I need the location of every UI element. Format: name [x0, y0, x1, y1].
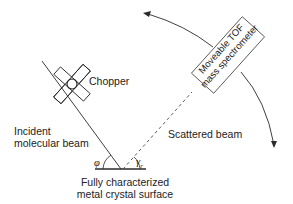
- arrow-head-down-icon: [271, 141, 277, 148]
- gamma-subscript: r: [140, 162, 143, 170]
- surface-label-1: Fully characterized: [70, 176, 180, 188]
- scattered-beam-label: Scattered beam: [168, 128, 242, 140]
- scattered-angle-label: γr: [136, 156, 143, 172]
- rotation-arc-down: [241, 72, 274, 145]
- incident-angle-label: φ: [94, 157, 100, 169]
- surface-label-2: metal crystal surface: [65, 188, 185, 200]
- incident-angle-arc: [103, 155, 111, 169]
- incident-beam-label-1: Incident: [14, 125, 51, 137]
- arrow-head-up-icon: [143, 11, 151, 17]
- chopper-label: Chopper: [89, 75, 129, 87]
- rotation-arc-up: [148, 14, 213, 47]
- incident-beam-label-2: molecular beam: [14, 137, 89, 149]
